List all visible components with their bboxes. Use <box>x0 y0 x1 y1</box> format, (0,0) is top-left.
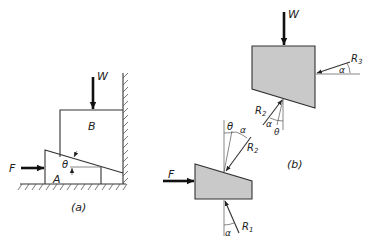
r3-arrow-icon <box>317 62 350 73</box>
block-b-free-body <box>252 46 315 108</box>
label-r2-lower: R2 <box>247 142 259 155</box>
wall <box>123 73 128 184</box>
label-f: F <box>9 162 16 175</box>
label-alpha-r2-upper: α <box>266 119 272 129</box>
floor <box>18 184 127 190</box>
caption-a: (a) <box>71 201 86 214</box>
label-r3: R3 <box>351 53 362 66</box>
label-w-b: W <box>288 8 300 21</box>
label-alpha-r1: α <box>225 228 231 238</box>
label-alpha-r3: α <box>339 65 345 75</box>
label-a: A <box>52 173 61 186</box>
wedge-a-free-body <box>195 164 252 199</box>
panel-b: W R3 α R2 α θ (b) F θ α R2 α R1 <box>163 8 362 238</box>
label-theta: θ <box>62 159 68 170</box>
block-b <box>60 110 123 157</box>
label-alpha-r2-lower: α <box>240 125 246 135</box>
panel-a: W B A F θ (a) <box>9 70 128 214</box>
label-r2-upper: R2 <box>255 105 267 118</box>
wedge-friction-diagram: W B A F θ (a) W R3 α R2 α θ (b) F <box>0 0 371 246</box>
label-w: W <box>97 70 109 83</box>
label-theta-r2-lower: θ <box>227 121 233 132</box>
label-b: B <box>88 120 96 133</box>
label-f-b: F <box>168 168 175 181</box>
caption-b: (b) <box>287 158 303 171</box>
label-theta-r2-upper: θ <box>274 127 280 137</box>
label-r1: R1 <box>242 221 253 234</box>
